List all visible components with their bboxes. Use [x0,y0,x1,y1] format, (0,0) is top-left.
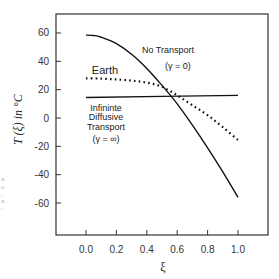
chart: 6040200-20-40-600.00.20.40.60.81.0ξT (ξ)… [0,0,279,279]
earth-label: Earth [92,64,118,76]
x-tick-label: 0.4 [140,244,154,255]
x-axis-title: ξ [160,260,166,274]
infinite-label-line2: Diffusive [89,112,123,122]
y-tick-label: 20 [38,84,50,95]
no-transport-gamma-label: (γ = 0) [165,61,191,71]
infinite-diffusive-line [86,95,238,97]
x-tick-label: 1.0 [231,244,245,255]
y-axis-title: T (ξ) in °C [11,93,25,145]
y-tick-label: 0 [43,113,49,124]
margin-artifact: - [1,205,3,211]
no-transport-label: No Transport [142,45,195,55]
x-tick-label: 0.8 [201,244,215,255]
y-tick-label: -20 [35,141,50,152]
infinite-label-line3: Transport [87,122,126,132]
margin-artifact: a [1,198,5,204]
margin-artifact: o [1,184,5,190]
x-tick-label: 0.6 [170,244,184,255]
y-tick-label: -40 [35,169,50,180]
y-tick-label: 60 [38,27,50,38]
y-tick-label: -60 [35,198,50,209]
margin-artifact: a [1,176,5,182]
y-tick-label: 40 [38,56,50,67]
infinite-gamma-label: (γ = ∞) [92,134,119,144]
x-tick-label: 0.0 [79,244,93,255]
x-tick-label: 0.2 [109,244,123,255]
